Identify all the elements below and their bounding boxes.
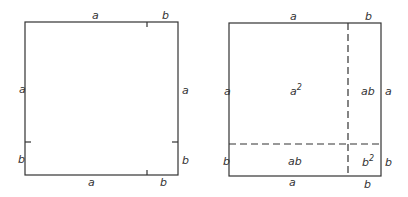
right-right-label-a: a [385, 85, 392, 98]
region-b-squared: b2 [362, 154, 374, 169]
right-left-label-a: a [224, 85, 231, 98]
right-left-label-b: b [223, 155, 230, 168]
left-side-label-a: a [19, 83, 26, 96]
right-bottom-label-b: b [364, 178, 371, 191]
right-side-label-b: b [182, 154, 189, 167]
left-top-label-b: b [162, 9, 169, 22]
region-ab-right: ab [361, 85, 375, 98]
region-ab-bottom: ab [288, 155, 302, 168]
left-square-outline [25, 22, 178, 175]
right-square: a b a b a b a b a2 ab ab b2 [223, 10, 392, 191]
right-top-label-a: a [290, 10, 297, 23]
left-top-label-a: a [92, 9, 99, 22]
left-side-label-b: b [18, 153, 25, 166]
left-bottom-label-b: b [160, 176, 167, 189]
right-square-outline [229, 23, 381, 176]
right-bottom-label-a: a [289, 176, 296, 189]
right-right-label-b: b [385, 156, 392, 169]
right-top-label-b: b [365, 10, 372, 23]
right-side-label-a: a [182, 84, 189, 97]
region-a-squared: a2 [290, 83, 302, 98]
left-bottom-label-a: a [88, 176, 95, 189]
square-decomposition-diagram: a b a b a b a b a b a b a b a b a2 ab ab… [0, 0, 408, 197]
left-square: a b a b a b a b [18, 9, 189, 189]
